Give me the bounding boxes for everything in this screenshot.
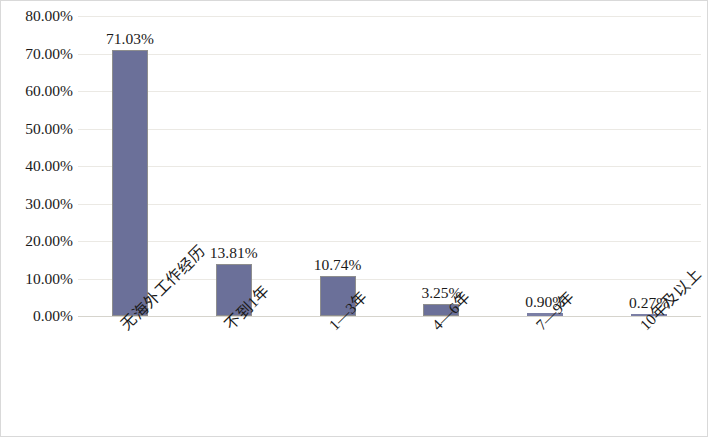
y-axis-tick-label: 20.00%	[1, 233, 73, 249]
gridline	[78, 241, 701, 242]
x-axis: 无海外工作经历不到1年1—3年4—6年7—9年10年及以上	[1, 316, 708, 437]
gridline	[78, 204, 701, 205]
y-axis-tick-label: 30.00%	[1, 196, 73, 212]
bar-value-label: 13.81%	[210, 245, 258, 261]
gridline	[78, 129, 701, 130]
bar-chart: 0.00%10.00%20.00%30.00%40.00%50.00%60.00…	[0, 0, 708, 437]
y-axis-tick-label: 50.00%	[1, 121, 73, 137]
y-axis-tick-label: 10.00%	[1, 271, 73, 287]
y-axis-tick-label: 80.00%	[1, 8, 73, 24]
y-axis-tick-label: 70.00%	[1, 46, 73, 62]
gridline	[78, 91, 701, 92]
bar-value-label: 0.90%	[525, 294, 565, 310]
bar-value-label: 71.03%	[106, 31, 154, 47]
y-axis-tick-label: 60.00%	[1, 83, 73, 99]
bar-value-label: 10.74%	[314, 257, 362, 273]
bar	[112, 50, 148, 316]
gridline	[78, 16, 701, 17]
bar-value-label: 0.27%	[629, 295, 669, 311]
y-axis-tick-label: 40.00%	[1, 158, 73, 174]
gridline	[78, 54, 701, 55]
bar-value-label: 3.25%	[421, 285, 461, 301]
gridline	[78, 166, 701, 167]
